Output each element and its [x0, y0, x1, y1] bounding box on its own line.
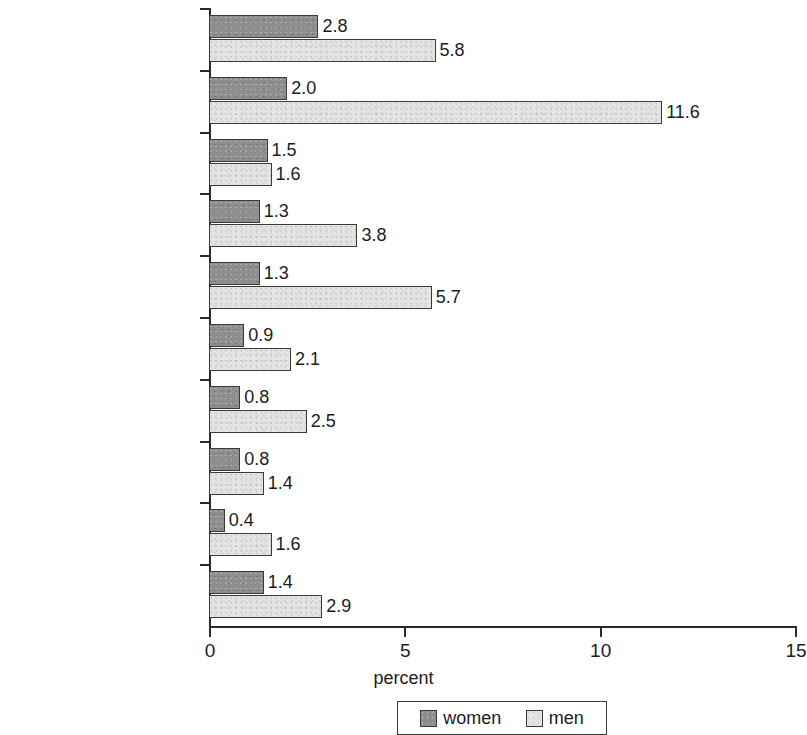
bar-men — [209, 533, 272, 556]
bar-value-label: 1.5 — [268, 139, 297, 162]
y-axis-tick — [200, 502, 209, 504]
bar-women — [209, 262, 260, 285]
y-axis-tick — [200, 255, 209, 257]
x-axis-tick-label: 0 — [205, 640, 216, 662]
bar-men — [209, 410, 307, 433]
bar-value-label: 0.8 — [240, 448, 269, 471]
y-axis-tick — [200, 317, 209, 319]
bar-value-label: 1.3 — [260, 200, 289, 223]
category-group: Southeastern Asia1.33.8 — [209, 193, 795, 255]
bar-value-label: 0.4 — [225, 509, 254, 532]
bar-men — [209, 224, 357, 247]
x-axis-tick — [404, 626, 406, 637]
bar-women — [209, 509, 225, 532]
bar-value-label: 1.6 — [272, 163, 301, 186]
bar-men — [209, 348, 291, 371]
bar-men — [209, 472, 264, 495]
bar-chart: Latin America and the Caribbean2.85.8Nor… — [0, 0, 807, 735]
bar-women — [209, 448, 240, 471]
bar-value-label: 2.9 — [322, 595, 351, 618]
category-group: Commonwealth of Independent States0.81.4 — [209, 441, 795, 503]
bar-value-label: 1.4 — [264, 472, 293, 495]
y-axis-tick — [200, 70, 209, 72]
bar-men — [209, 39, 436, 62]
y-axis-tick — [200, 8, 209, 10]
bar-men — [209, 286, 432, 309]
bar-men — [209, 101, 662, 124]
bar-value-label: 11.6 — [662, 101, 700, 124]
y-axis-tick — [200, 132, 209, 134]
bar-value-label: 2.0 — [287, 77, 316, 100]
legend-label-women: women — [443, 708, 501, 729]
x-axis-tick — [600, 626, 602, 637]
chart-legend: women men — [397, 701, 607, 735]
bar-value-label: 2.8 — [318, 15, 347, 38]
category-group: Northern Africa2.011.6 — [209, 70, 795, 132]
bar-women — [209, 200, 260, 223]
bar-men — [209, 163, 272, 186]
legend-label-men: men — [549, 708, 584, 729]
bar-value-label: 2.5 — [307, 410, 336, 433]
bar-men — [209, 595, 322, 618]
category-group: Western Asia1.35.7 — [209, 255, 795, 317]
bar-women — [209, 15, 318, 38]
bar-women — [209, 77, 287, 100]
bar-value-label: 5.8 — [436, 39, 465, 62]
category-group: Eastern Asia1.51.6 — [209, 132, 795, 194]
bar-women — [209, 386, 240, 409]
x-axis-line — [209, 626, 796, 628]
bar-women — [209, 324, 244, 347]
legend-swatch-women-icon — [420, 710, 437, 727]
bar-value-label: 1.6 — [272, 533, 301, 556]
bar-women — [209, 139, 268, 162]
bar-value-label: 0.9 — [244, 324, 273, 347]
y-axis-tick — [200, 441, 209, 443]
category-group: Sub-Saharan Africa0.82.5 — [209, 379, 795, 441]
x-axis-tick-label: 10 — [590, 640, 611, 662]
bar-value-label: 2.1 — [291, 348, 320, 371]
x-axis-tick — [209, 626, 211, 637]
x-axis-title: percent — [0, 668, 807, 689]
y-axis-tick — [200, 193, 209, 195]
category-group: Southern Asia0.92.1 — [209, 317, 795, 379]
bar-value-label: 5.7 — [432, 286, 461, 309]
category-group: Latin America and the Caribbean2.85.8 — [209, 8, 795, 70]
y-axis-tick — [200, 564, 209, 566]
x-axis-tick-label: 15 — [785, 640, 806, 662]
y-axis-tick — [200, 379, 209, 381]
bar-value-label: 3.8 — [357, 224, 386, 247]
plot-area: Latin America and the Caribbean2.85.8Nor… — [209, 8, 795, 626]
bar-value-label: 1.3 — [260, 262, 289, 285]
category-group: Oceania0.41.6 — [209, 502, 795, 564]
bar-women — [209, 571, 264, 594]
category-group: Developing Regions1.42.9 — [209, 564, 795, 626]
bar-value-label: 0.8 — [240, 386, 269, 409]
x-axis-tick — [795, 626, 797, 637]
legend-item-men: men — [526, 708, 584, 729]
legend-item-women: women — [420, 708, 501, 729]
bar-value-label: 1.4 — [264, 571, 293, 594]
x-axis-tick-label: 5 — [400, 640, 411, 662]
legend-swatch-men-icon — [526, 710, 543, 727]
